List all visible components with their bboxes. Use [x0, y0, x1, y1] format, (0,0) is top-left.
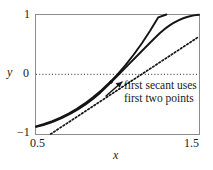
annotation-text-line-1: first secant uses — [124, 80, 197, 92]
annotation-text-line-2: first two points — [124, 93, 194, 105]
x-tick-label-1.5: 1.5 — [184, 137, 199, 149]
x-tick-label-0.5: 0.5 — [30, 137, 45, 149]
y-axis-label: y — [7, 66, 12, 78]
y-tick-label-1: 1 — [24, 8, 30, 20]
y-tick-label-0: 0 — [23, 67, 29, 79]
figure-container: 1 0 −1 0.5 1.5 x y first secant uses fir… — [0, 0, 213, 170]
function-curve-smooth — [36, 15, 199, 127]
x-axis-label: x — [113, 149, 118, 161]
y-tick-label-minus-1: −1 — [17, 126, 30, 138]
